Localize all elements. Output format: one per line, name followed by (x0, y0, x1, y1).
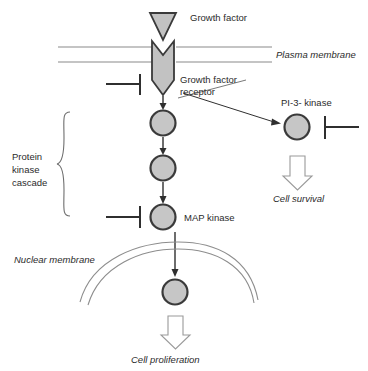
map-kinase-node (151, 205, 176, 230)
inhibitor-map-kinase (106, 206, 140, 228)
cell-survival-label: Cell survival (273, 193, 325, 204)
kinase-node-2 (151, 156, 176, 181)
growth-factor-shape (150, 13, 176, 40)
cell-proliferation-label: Cell proliferation (131, 354, 200, 365)
arrow-map-kinase-to-nucleus (172, 232, 179, 277)
growth-factor-receptor-label-line1: Growth factor (180, 74, 237, 85)
nuclear-kinase-node (163, 280, 188, 305)
protein-kinase-cascade-brace (57, 112, 70, 216)
map-kinase-label: MAP kinase (184, 212, 235, 223)
pathway-diagram-canvas: Growth factor Plasma membrane Growth fac… (0, 0, 368, 371)
growth-factor-receptor-label-line2: receptor (180, 86, 215, 97)
cell-survival-block-arrow (283, 156, 312, 190)
growth-factor-label: Growth factor (190, 12, 247, 23)
protein-kinase-cascade-label-line1: Protein (12, 151, 42, 162)
pi3-kinase-label: PI-3- kinase (281, 97, 332, 108)
inhibitor-receptor (106, 74, 140, 95)
kinase-node-1 (151, 111, 176, 136)
arrow-receptor-to-kinase1 (160, 96, 167, 110)
cell-proliferation-block-arrow (161, 316, 190, 349)
protein-kinase-cascade-label-line2: kinase (12, 164, 39, 175)
nuclear-membrane-label: Nuclear membrane (14, 254, 95, 265)
growth-factor-receptor-shape (152, 41, 174, 95)
inhibitor-pi3-kinase (325, 116, 359, 139)
arrow-kinase2-to-map-kinase (160, 182, 167, 204)
protein-kinase-cascade-label-line3: cascade (12, 177, 47, 188)
pathway-diagram: Growth factor Plasma membrane Growth fac… (0, 0, 368, 371)
plasma-membrane-label: Plasma membrane (276, 49, 356, 60)
pi3-kinase-node (285, 115, 310, 140)
arrow-kinase1-to-kinase2 (160, 137, 167, 155)
arrow-receptor-to-pi3-kinase (183, 93, 281, 126)
